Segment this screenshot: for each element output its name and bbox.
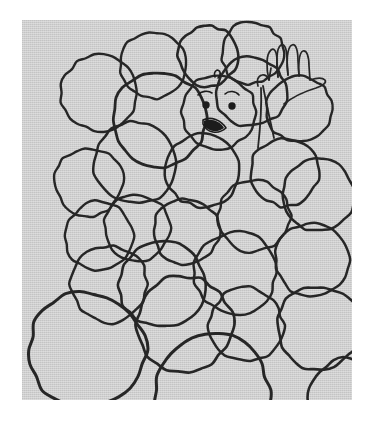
finger-3 bbox=[287, 45, 299, 76]
left-eye-icon bbox=[202, 101, 209, 108]
ball-outline bbox=[29, 291, 148, 400]
ball-outline bbox=[222, 22, 285, 85]
figure-root bbox=[0, 0, 374, 428]
ball-outline bbox=[208, 286, 285, 361]
ball-outline bbox=[54, 148, 124, 217]
balls-group bbox=[29, 22, 352, 400]
arm-line-inner bbox=[258, 88, 261, 148]
right-eyebrow bbox=[225, 91, 239, 95]
ball-outline bbox=[65, 200, 135, 271]
circle-pile-drawing bbox=[22, 20, 352, 400]
ball-outline bbox=[308, 357, 352, 400]
ball-outline bbox=[60, 54, 136, 132]
ball-outline bbox=[120, 32, 186, 99]
ball-outline bbox=[193, 231, 276, 315]
illustration-panel bbox=[22, 20, 352, 400]
right-eye-icon bbox=[228, 102, 235, 109]
ball-outline bbox=[275, 223, 350, 297]
ball-outline bbox=[69, 245, 148, 324]
ball-outline bbox=[283, 158, 352, 230]
thumb bbox=[284, 78, 325, 104]
